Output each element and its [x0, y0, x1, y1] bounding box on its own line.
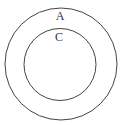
venn-diagram: A C	[0, 0, 122, 125]
set-a-circle	[5, 8, 117, 120]
set-c-label: C	[55, 30, 63, 44]
set-a-label: A	[56, 9, 65, 23]
